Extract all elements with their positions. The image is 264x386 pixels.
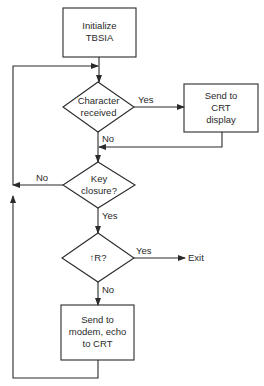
edge-key-yes-label: Yes (102, 211, 118, 221)
edge-ctrlr-yes-label: Yes (136, 246, 152, 256)
node-send-crt-label: Send to CRT display (184, 90, 258, 126)
node-exit-label: Exit (188, 253, 204, 263)
node-char-received-label: Character received (63, 95, 134, 119)
edge-crt-to-key (99, 132, 222, 147)
flowchart: Initialize TBSIA Character received Send… (0, 0, 264, 386)
node-key-closure-label: Key closure? (63, 173, 135, 197)
node-send-modem-label: Send to modem, echo to CRT (61, 314, 134, 350)
edge-loop-return (13, 66, 98, 185)
node-ctrl-r-label: ↑R? (62, 252, 134, 264)
edge-char-no-label: No (102, 134, 114, 144)
edge-ctrlr-no-label: No (102, 285, 114, 295)
edge-key-no-label: No (36, 173, 48, 183)
edge-modem-loop-bottom (13, 196, 98, 378)
edge-char-yes-label: Yes (138, 95, 154, 105)
node-init-label: Initialize TBSIA (63, 20, 136, 44)
